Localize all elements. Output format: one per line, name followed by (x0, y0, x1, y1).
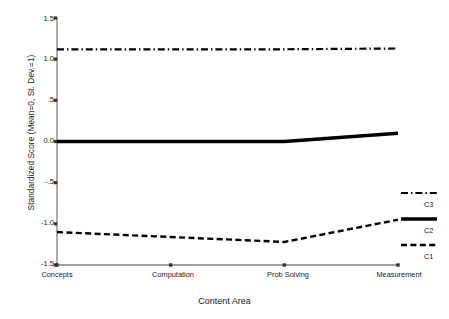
data-series-group (57, 48, 398, 241)
series-line-c1 (57, 220, 398, 242)
series-line-c3 (57, 48, 398, 49)
chart-container: Standardized Score (Mean=0, St. Dev.=1) … (0, 0, 449, 319)
series-line-c2 (57, 133, 398, 141)
chart-svg (0, 0, 449, 319)
legend-sample-group (401, 193, 437, 245)
